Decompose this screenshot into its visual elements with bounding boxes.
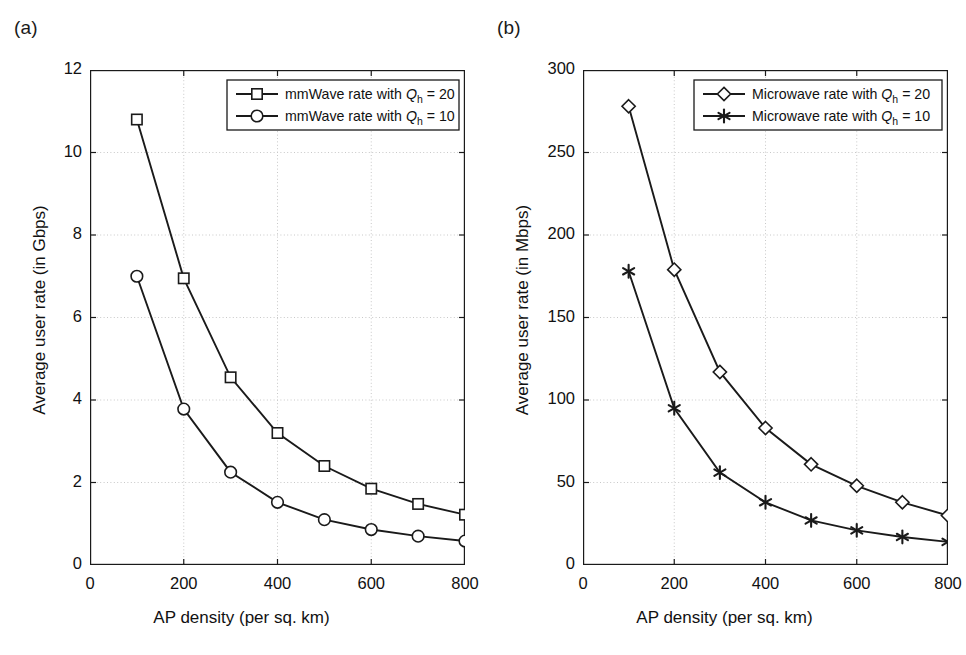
data-point-diamond [896,496,909,509]
data-point-circle [459,535,465,547]
x-tick-label: 400 [248,574,308,593]
panel-b-x-axis-label: AP density (per sq. km) [483,608,966,628]
y-tick-label: 0 [515,554,575,573]
data-point-star [623,265,634,278]
x-tick-label: 0 [553,574,613,593]
data-point-circle [225,466,237,478]
data-point-square [413,499,423,509]
x-tick-label: 800 [918,574,966,593]
legend-label: mmWave rate with Qh = 20 [285,86,455,105]
legend-label: Microwave rate with Qh = 10 [752,108,930,127]
y-tick-label: 4 [22,389,82,408]
y-tick-label: 250 [515,142,575,161]
series-0 [622,100,948,522]
data-point-diamond [850,479,863,492]
data-point-square [132,114,142,124]
gridlines [90,70,465,565]
x-tick-label: 600 [341,574,401,593]
gridlines [583,70,948,565]
series-line [629,106,948,515]
y-tick-label: 300 [515,59,575,78]
panel-a-chart-svg: mmWave rate with Qh = 20mmWave rate with… [90,70,465,565]
x-tick-label: 200 [154,574,214,593]
data-point-diamond [941,509,948,522]
panel-a-plot-area: mmWave rate with Qh = 20mmWave rate with… [90,70,465,565]
data-point-square [179,273,189,283]
data-point-circle [365,524,377,536]
panel-a: (a) Average user rate (in Gbps) AP densi… [0,0,483,655]
data-point-square [460,509,465,519]
data-point-star [760,496,771,509]
data-point-square [319,461,329,471]
y-tick-label: 200 [515,224,575,243]
x-tick-label: 200 [644,574,704,593]
y-tick-label: 6 [22,307,82,326]
y-tick-label: 0 [22,554,82,573]
data-point-circle [412,530,424,542]
panel-b-label: (b) [497,17,521,39]
panel-b: (b) Average user rate (in Mbps) AP densi… [483,0,966,655]
y-tick-label: 10 [22,142,82,161]
data-point-square [225,372,235,382]
data-point-square [252,89,262,99]
y-tick-label: 12 [22,59,82,78]
data-point-square [272,428,282,438]
legend: mmWave rate with Qh = 20mmWave rate with… [227,80,459,130]
x-tick-label: 400 [736,574,796,593]
panel-b-plot-area: Microwave rate with Qh = 20Microwave rat… [583,70,948,565]
data-point-circle [131,270,143,282]
legend-label: Microwave rate with Qh = 20 [752,86,930,105]
figure-container: (a) Average user rate (in Gbps) AP densi… [0,0,966,655]
panel-a-label: (a) [14,17,38,39]
x-tick-label: 0 [60,574,120,593]
data-point-circle [251,110,263,122]
data-point-circle [319,514,331,526]
data-point-diamond [668,263,681,276]
panel-b-chart-svg: Microwave rate with Qh = 20Microwave rat… [583,70,948,565]
data-point-square [366,483,376,493]
y-tick-label: 100 [515,389,575,408]
x-tick-label: 600 [827,574,887,593]
data-point-circle [178,403,190,415]
panel-a-x-axis-label: AP density (per sq. km) [0,608,483,628]
y-tick-label: 150 [515,307,575,326]
data-point-circle [272,497,284,509]
legend-label: mmWave rate with Qh = 10 [285,108,455,127]
y-tick-label: 50 [515,472,575,491]
y-tick-label: 8 [22,224,82,243]
y-tick-label: 2 [22,472,82,491]
data-point-diamond [622,100,635,113]
legend: Microwave rate with Qh = 20Microwave rat… [694,80,942,130]
